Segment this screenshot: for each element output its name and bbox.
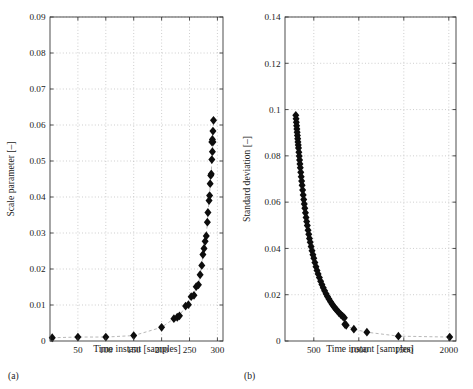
y-tick-label-6: 0.06 xyxy=(29,120,45,130)
y-tick-label-3: 0.06 xyxy=(264,197,280,207)
x-tick-label-3: 2000 xyxy=(440,345,459,355)
y-tick-label-0: 0 xyxy=(276,336,281,346)
y-tick-label-6: 0.12 xyxy=(264,59,280,69)
x-axis-title-b: Time instant [samples] xyxy=(326,343,414,354)
subfigure-caption-b: (b) xyxy=(244,370,255,381)
subfigure-caption-a: (a) xyxy=(8,370,19,381)
plot-frame xyxy=(285,17,456,341)
chart-svg-a: 5010015020025030000.010.020.030.040.050.… xyxy=(0,0,236,356)
y-tick-label-9: 0.09 xyxy=(29,12,45,22)
data-point-marker xyxy=(198,261,205,270)
tick-group-a: 5010015020025030000.010.020.030.040.050.… xyxy=(29,12,224,354)
x-tick-label-0: 500 xyxy=(307,345,321,355)
data-point-marker xyxy=(199,250,206,259)
y-tick-label-2: 0.02 xyxy=(29,264,45,274)
y-tick-label-2: 0.04 xyxy=(264,244,280,254)
y-tick-label-4: 0.08 xyxy=(264,151,280,161)
axis-group-b xyxy=(285,17,456,341)
y-axis-title-a: Scale parameter [–] xyxy=(5,141,16,216)
grid-group-b xyxy=(285,17,456,341)
figure-container: 5010015020025030000.010.020.030.040.050.… xyxy=(0,0,473,389)
y-tick-label-8: 0.08 xyxy=(29,48,45,58)
data-point-marker xyxy=(207,179,214,188)
chart-svg-b: 50010001500200000.020.040.060.080.10.120… xyxy=(236,0,473,356)
data-point-marker xyxy=(350,325,357,334)
y-tick-label-1: 0.02 xyxy=(264,290,280,300)
data-point-marker xyxy=(363,328,370,337)
data-point-marker xyxy=(197,270,204,279)
y-axis-title-b: Standard deviation [–] xyxy=(241,136,252,222)
data-point-marker xyxy=(201,244,208,253)
data-point-marker xyxy=(208,155,215,164)
x-axis-title-a: Time instant [samples] xyxy=(93,343,181,354)
axis-group-a xyxy=(50,17,223,341)
data-point-marker xyxy=(209,147,216,156)
x-tick-label-5: 300 xyxy=(211,345,225,355)
y-tick-label-4: 0.04 xyxy=(29,192,45,202)
data-point-marker xyxy=(158,323,165,332)
data-point-marker xyxy=(209,127,216,136)
y-tick-label-7: 0.14 xyxy=(264,12,280,22)
plot-frame xyxy=(50,17,223,341)
y-tick-label-1: 0.01 xyxy=(29,300,45,310)
data-point-marker xyxy=(446,333,453,342)
x-tick-label-4: 250 xyxy=(183,345,197,355)
x-tick-label-0: 50 xyxy=(73,345,83,355)
data-point-marker xyxy=(395,332,402,341)
y-tick-label-5: 0.1 xyxy=(269,105,281,115)
y-tick-label-7: 0.07 xyxy=(29,84,45,94)
series-group-a xyxy=(49,116,217,342)
chart-panel-b: 50010001500200000.020.040.060.080.10.120… xyxy=(236,0,473,389)
data-point-marker xyxy=(210,116,217,125)
chart-panel-a: 5010015020025030000.010.020.030.040.050.… xyxy=(0,0,236,389)
y-tick-label-0: 0 xyxy=(41,336,46,346)
y-tick-label-3: 0.03 xyxy=(29,228,45,238)
data-point-marker xyxy=(204,218,211,227)
y-tick-label-5: 0.05 xyxy=(29,156,45,166)
data-point-marker xyxy=(204,208,211,217)
series-group-b xyxy=(292,111,453,342)
grid-group-a xyxy=(50,17,223,341)
